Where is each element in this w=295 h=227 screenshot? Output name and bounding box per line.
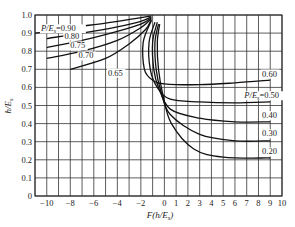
x-tick-label: 3 (198, 198, 202, 208)
x-tick-label: 6 (233, 198, 237, 208)
x-tick-label: −4 (113, 198, 123, 208)
y-tick-label: 0 (28, 191, 32, 201)
y-axis-label: h/Es (3, 98, 14, 114)
curve-label: 0.75 (70, 40, 85, 50)
y-tick-label: 0.7 (21, 64, 32, 74)
y-tick-label: 0.3 (21, 137, 32, 147)
y-tick-label: 0.5 (21, 101, 32, 111)
x-axis-label: F(h/Es) (146, 210, 174, 221)
x-tick-label: 5 (221, 198, 225, 208)
x-tick-label: 1 (174, 198, 178, 208)
x-tick-label: 4 (209, 198, 214, 208)
y-tick-label: 0.9 (21, 28, 32, 38)
x-tick-label: 2 (186, 198, 190, 208)
y-tick-label: 0.6 (21, 82, 32, 92)
curve-label: 0.30 (262, 128, 277, 138)
x-tick-label: −2 (136, 198, 145, 208)
series-curve (143, 20, 271, 84)
chart-plot: P/Es=0.900.800.750.700.650.60P/Es=0.500.… (0, 0, 295, 227)
y-tick-label: 0.4 (21, 119, 32, 129)
curve-label: 0.60 (262, 69, 277, 79)
x-tick-label: −6 (89, 198, 98, 208)
x-tick-label: 7 (245, 198, 249, 208)
chart-container: P/Es=0.900.800.750.700.650.60P/Es=0.500.… (0, 0, 295, 227)
y-tick-label: 0.8 (21, 46, 32, 56)
x-tick-label: 9 (268, 198, 272, 208)
x-tick-label: −8 (66, 198, 75, 208)
curve-label: 0.40 (262, 110, 277, 120)
curve-label: 0.70 (79, 50, 94, 60)
curve-label: 0.65 (108, 68, 123, 78)
y-tick-label: 1.0 (21, 10, 32, 20)
x-tick-label: 10 (278, 198, 287, 208)
curve-label: P/Es=0.50 (243, 90, 279, 101)
x-tick-label: 0 (162, 198, 166, 208)
y-tick-label: 0.1 (21, 173, 32, 183)
x-tick-label: 8 (256, 198, 260, 208)
curve-label: 0.20 (262, 146, 277, 156)
y-tick-label: 0.2 (21, 155, 32, 165)
x-tick-label: −10 (40, 198, 53, 208)
curve-label: 0.80 (64, 31, 79, 41)
